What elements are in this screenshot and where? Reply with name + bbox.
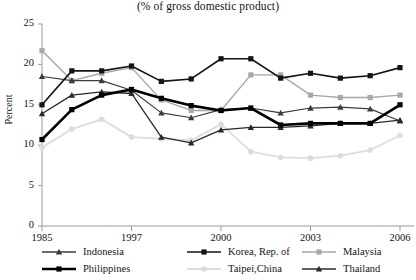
legend-swatch-icon bbox=[40, 246, 78, 258]
data-point-marker bbox=[56, 266, 61, 271]
data-point-marker bbox=[69, 68, 74, 73]
data-point-marker bbox=[189, 108, 194, 113]
data-point-marker bbox=[308, 155, 314, 161]
data-point-marker bbox=[316, 249, 321, 254]
data-point-marker bbox=[248, 72, 253, 77]
data-point-marker bbox=[338, 76, 343, 81]
data-point-marker bbox=[39, 137, 44, 142]
data-point-marker bbox=[308, 93, 313, 98]
legend-swatch-icon bbox=[40, 263, 78, 275]
data-point-marker bbox=[129, 63, 134, 68]
legend-swatch bbox=[300, 263, 338, 275]
legend-swatch-icon bbox=[185, 263, 223, 275]
chart-legend: IndonesiaKorea, Rep. ofMalaysiaPhilippin… bbox=[0, 246, 416, 280]
series-line bbox=[42, 92, 400, 143]
data-point-marker bbox=[39, 145, 45, 151]
data-point-marker bbox=[69, 107, 74, 112]
data-point-marker bbox=[397, 93, 402, 98]
data-point-marker bbox=[69, 126, 75, 132]
data-point-marker bbox=[39, 102, 44, 107]
data-point-marker bbox=[189, 103, 194, 108]
legend-swatch bbox=[300, 246, 338, 258]
data-point-marker bbox=[218, 56, 223, 61]
legend-swatch-icon bbox=[185, 246, 223, 258]
data-point-marker bbox=[218, 121, 224, 127]
legend-item-malaysia[interactable]: Malaysia bbox=[300, 246, 382, 258]
data-point-marker bbox=[129, 87, 134, 92]
legend-item-indonesia[interactable]: Indonesia bbox=[40, 246, 124, 258]
data-point-marker bbox=[248, 56, 253, 61]
data-point-marker bbox=[189, 76, 194, 81]
data-point-marker bbox=[308, 71, 313, 76]
data-point-marker bbox=[248, 149, 254, 155]
legend-item-taipei-china[interactable]: Taipei,China bbox=[185, 263, 282, 275]
data-point-marker bbox=[99, 117, 105, 123]
legend-item-label: Korea, Rep. of bbox=[228, 246, 290, 258]
data-point-marker bbox=[201, 249, 206, 254]
data-point-marker bbox=[368, 95, 373, 100]
data-point-marker bbox=[367, 147, 373, 153]
chart-container: (% of gross domestic product) Percent 05… bbox=[0, 0, 416, 280]
data-point-marker bbox=[129, 134, 135, 140]
data-point-marker bbox=[278, 76, 283, 81]
legend-swatch bbox=[40, 246, 78, 258]
data-point-marker bbox=[99, 93, 104, 98]
plot-area bbox=[0, 0, 416, 280]
data-point-marker bbox=[278, 122, 283, 127]
data-point-marker bbox=[159, 79, 164, 84]
legend-swatch bbox=[40, 263, 78, 275]
data-point-marker bbox=[99, 68, 104, 73]
legend-item-label: Taipei,China bbox=[228, 263, 282, 275]
legend-item-philippines[interactable]: Philippines bbox=[40, 263, 130, 275]
data-series-group bbox=[39, 48, 403, 161]
axes bbox=[38, 24, 414, 231]
data-point-marker bbox=[39, 48, 44, 53]
legend-item-label: Malaysia bbox=[343, 246, 382, 258]
data-point-marker bbox=[397, 65, 402, 70]
data-point-marker bbox=[338, 121, 343, 126]
legend-item-thailand[interactable]: Thailand bbox=[300, 263, 380, 275]
data-point-marker bbox=[218, 108, 223, 113]
data-point-marker bbox=[397, 102, 402, 107]
data-point-marker bbox=[338, 95, 343, 100]
data-point-marker bbox=[368, 73, 373, 78]
legend-item-korea-rep-of[interactable]: Korea, Rep. of bbox=[185, 246, 290, 258]
series-philippines bbox=[39, 87, 402, 142]
data-point-marker bbox=[397, 133, 403, 139]
legend-swatch-icon bbox=[300, 246, 338, 258]
data-point-marker bbox=[248, 105, 253, 110]
data-point-marker bbox=[308, 121, 313, 126]
data-point-marker bbox=[39, 110, 45, 116]
legend-swatch bbox=[185, 246, 223, 258]
data-point-marker bbox=[278, 155, 284, 161]
data-point-marker bbox=[159, 96, 164, 101]
legend-item-label: Thailand bbox=[343, 263, 380, 275]
data-point-marker bbox=[368, 121, 373, 126]
legend-item-label: Indonesia bbox=[83, 246, 124, 258]
data-point-marker bbox=[201, 266, 207, 272]
legend-item-label: Philippines bbox=[83, 263, 130, 275]
data-point-marker bbox=[338, 153, 344, 159]
legend-swatch bbox=[185, 263, 223, 275]
legend-swatch-icon bbox=[300, 263, 338, 275]
